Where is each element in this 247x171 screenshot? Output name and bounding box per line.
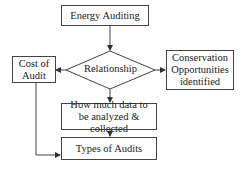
cost-of-audit-label: Cost of Audit [16,58,52,82]
conservation-opportunities-box: Conservation Opportunities identified [166,50,234,90]
cost-of-audit-box: Cost of Audit [12,56,56,83]
how-much-data-box: How much data to be analyzed & collected [61,103,157,130]
energy-auditing-label: Energy Auditing [70,10,140,22]
conservation-opportunities-label: Conservation Opportunities identified [169,52,231,88]
energy-auditing-box: Energy Auditing [61,5,149,26]
types-of-audits-label: Types of Audits [76,143,142,155]
arrow-cost-to-types [36,83,60,155]
how-much-data-label: How much data to be analyzed & collected [65,99,153,135]
relationship-label: Relationship [66,63,155,74]
types-of-audits-box: Types of Audits [61,137,157,160]
